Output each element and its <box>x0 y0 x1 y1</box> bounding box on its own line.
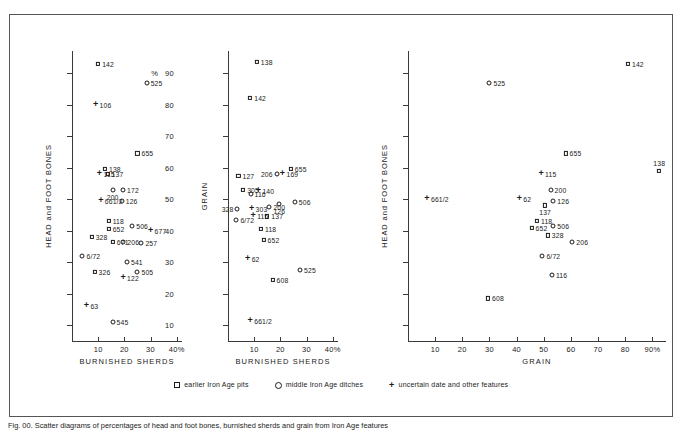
circle-marker <box>549 272 554 277</box>
x-tick <box>571 337 572 341</box>
data-point-label: 652 <box>536 224 548 231</box>
x-tick-label: 20 <box>276 345 285 354</box>
data-point-label: 140 <box>262 188 274 195</box>
square-marker <box>92 270 96 274</box>
square-marker <box>529 225 533 229</box>
y-axis-line <box>408 51 409 341</box>
square-marker <box>543 203 547 207</box>
legend-item: middle Iron Age ditches <box>275 381 363 389</box>
circle-marker <box>121 187 126 192</box>
legend-label: middle Iron Age ditches <box>286 381 363 388</box>
data-point-label: 115 <box>257 213 268 220</box>
y-tick-label: 20 <box>165 289 174 298</box>
square-marker <box>174 382 181 389</box>
y-tick <box>67 262 72 263</box>
y-tick-label: 90 <box>165 69 174 78</box>
data-point-label: 138 <box>653 160 665 167</box>
data-point-label: 6/72 <box>546 252 560 259</box>
plus-marker: + <box>424 194 429 203</box>
data-point-label: 116 <box>556 271 567 278</box>
figure-frame: 102030405060708090%10203040%BURNISHED SH… <box>9 14 673 417</box>
square-marker <box>546 233 550 237</box>
data-point-label: 137 <box>539 209 551 216</box>
circle-marker <box>292 200 297 205</box>
data-point-label: 206 <box>261 170 273 177</box>
plus-marker: + <box>280 169 285 178</box>
y-tick <box>403 105 408 106</box>
x-tick-label: 80 <box>621 345 630 354</box>
data-point-label: 169 <box>286 170 298 177</box>
square-marker <box>111 240 115 244</box>
x-axis-title: GRAIN <box>522 357 551 366</box>
data-point-label: 172 <box>127 186 139 193</box>
plus-marker: + <box>389 380 394 390</box>
x-tick <box>517 337 518 341</box>
figure-scatter-diagrams: 102030405060708090%10203040%BURNISHED SH… <box>0 0 684 438</box>
y-tick <box>403 294 408 295</box>
x-tick-label: 30 <box>146 345 155 354</box>
x-tick-label: 60 <box>566 345 575 354</box>
plus-marker: + <box>517 194 522 203</box>
y-tick <box>67 73 72 74</box>
y-tick <box>403 231 408 232</box>
y-tick <box>223 168 228 169</box>
data-point-label: 206 <box>576 238 588 245</box>
legend: earlier Iron Age pitsmiddle Iron Age dit… <box>10 380 672 390</box>
data-point-label: 200 <box>273 204 285 211</box>
data-point-label: 137 <box>112 170 124 177</box>
y-tick <box>223 199 228 200</box>
circle-marker <box>551 223 556 228</box>
x-tick-label: 20 <box>120 345 129 354</box>
data-point-label: 541 <box>131 259 143 266</box>
y-tick <box>223 231 228 232</box>
data-point-label: 328 <box>222 205 234 212</box>
circle-marker <box>570 239 575 244</box>
y-axis-title: HEAD and FOOT BONES <box>380 144 389 248</box>
y-tick <box>67 325 72 326</box>
x-tick-label: 40% <box>325 345 341 354</box>
circle-marker <box>125 260 130 265</box>
y-tick <box>223 136 228 137</box>
square-marker <box>106 172 110 176</box>
square-marker <box>535 219 539 223</box>
x-tick-label: 40 <box>512 345 521 354</box>
plus-marker: + <box>93 100 98 109</box>
y-tick <box>67 168 72 169</box>
data-point-label: 6/72 <box>86 252 100 259</box>
y-tick-label: 70 <box>165 132 174 141</box>
data-point-label: 506 <box>557 222 569 229</box>
data-point-label: 525 <box>493 79 505 86</box>
data-point-label: 525 <box>304 267 316 274</box>
plus-marker: + <box>245 254 250 263</box>
data-point-label: 106 <box>100 101 112 108</box>
x-axis-title: BURNISHED SHERDS <box>79 357 174 366</box>
y-tick <box>223 294 228 295</box>
x-tick <box>598 337 599 341</box>
square-marker <box>90 235 94 239</box>
y-tick <box>223 325 228 326</box>
plus-marker: + <box>538 169 543 178</box>
x-tick <box>280 337 281 341</box>
x-tick <box>435 337 436 341</box>
y-axis-percent-symbol: % <box>151 69 158 78</box>
data-point-label: 608 <box>492 295 504 302</box>
data-point-label: 62 <box>252 256 260 263</box>
x-tick-label: 10 <box>250 345 259 354</box>
x-tick <box>254 337 255 341</box>
x-axis-title: BURNISHED SHERDS <box>235 357 330 366</box>
x-tick-label: 70 <box>594 345 603 354</box>
circle-marker <box>144 80 149 85</box>
data-point-label: 200 <box>555 186 567 193</box>
x-tick <box>333 337 334 341</box>
y-tick-label: 60 <box>165 163 174 172</box>
data-point-label: 545 <box>117 319 129 326</box>
circle-marker <box>139 241 144 246</box>
square-marker <box>259 227 263 231</box>
legend-label: uncertain date and other features <box>399 381 509 388</box>
data-point-label: 655 <box>570 150 582 157</box>
y-axis-title: GRAIN <box>200 182 209 210</box>
data-point-label: 525 <box>151 79 163 86</box>
x-tick-label: 90% <box>644 345 660 354</box>
plus-marker: + <box>97 169 102 178</box>
y-tick <box>403 262 408 263</box>
